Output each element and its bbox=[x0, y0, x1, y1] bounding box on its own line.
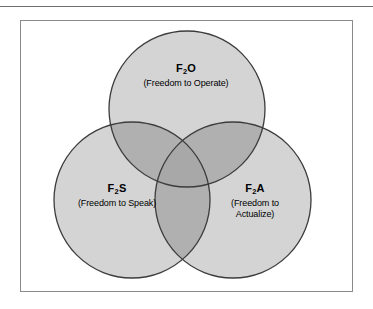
venn-label-f2a: F2A (Freedom to Actualize) bbox=[193, 182, 317, 219]
venn-label-f2s-description: (Freedom to Speak) bbox=[32, 198, 202, 209]
diagram-frame bbox=[20, 20, 353, 292]
venn-label-f2s: F2S (Freedom to Speak) bbox=[32, 182, 202, 209]
venn-label-f2o-code: F2O bbox=[106, 62, 266, 75]
venn-label-f2s-code: F2S bbox=[32, 182, 202, 195]
venn-label-f2o: F2O (Freedom to Operate) bbox=[106, 62, 266, 89]
venn-label-f2a-description: (Freedom to Actualize) bbox=[193, 198, 317, 219]
top-horizontal-rule bbox=[0, 6, 373, 7]
venn-label-f2o-description: (Freedom to Operate) bbox=[106, 78, 266, 89]
figure-root: F2O (Freedom to Operate) F2S (Freedom to… bbox=[0, 0, 373, 309]
venn-label-f2a-code: F2A bbox=[193, 182, 317, 195]
